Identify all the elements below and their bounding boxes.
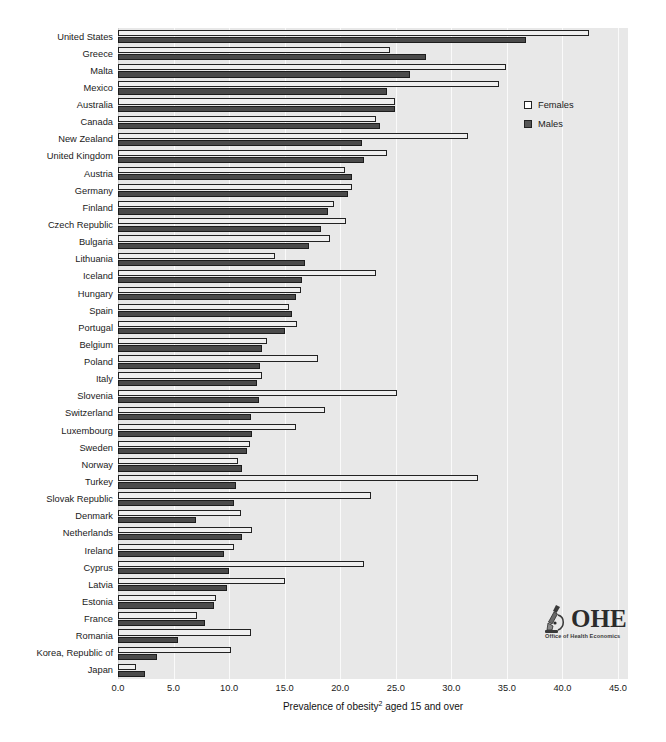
x-axis-tick-15.0: 15.0	[276, 683, 294, 693]
bar-row	[118, 576, 628, 593]
y-axis-label: Norway	[0, 460, 113, 470]
bar-males	[118, 345, 262, 351]
bar-males	[118, 534, 242, 540]
bar-females	[118, 47, 390, 53]
legend-item-male: Males	[524, 119, 634, 129]
bar-females	[118, 338, 267, 344]
bar-females	[118, 527, 252, 533]
bar-males	[118, 277, 302, 283]
y-axis-label: Korea, Republic of	[0, 648, 113, 658]
bar-row	[118, 302, 628, 319]
bar-males	[118, 243, 309, 249]
y-axis-label: New Zealand	[0, 134, 113, 144]
y-axis-label: Canada	[0, 117, 113, 127]
bar-row	[118, 285, 628, 302]
y-axis-label: Lithuania	[0, 254, 113, 264]
y-axis-label: Latvia	[0, 580, 113, 590]
bar-females	[118, 355, 318, 361]
bar-males	[118, 448, 247, 454]
x-axis-tick-25.0: 25.0	[387, 683, 405, 693]
x-axis-title-tail: aged 15 and over	[382, 701, 463, 712]
bar-row	[118, 148, 628, 165]
bar-males	[118, 140, 362, 146]
ohe-logo: OHE Office of Health Economics	[543, 603, 647, 649]
bar-females	[118, 30, 589, 36]
bar-females	[118, 321, 297, 327]
bar-males	[118, 637, 178, 643]
bar-row	[118, 79, 628, 96]
bar-males	[118, 226, 321, 232]
bar-row	[118, 165, 628, 182]
bar-males	[118, 328, 285, 334]
legend-swatch-male-icon	[524, 120, 532, 128]
bar-females	[118, 561, 364, 567]
bar-females	[118, 372, 262, 378]
bar-females	[118, 218, 346, 224]
bar-males	[118, 671, 145, 677]
y-axis-label: Romania	[0, 631, 113, 641]
microscope-icon	[543, 603, 573, 637]
bar-females	[118, 201, 334, 207]
y-axis-label: Spain	[0, 306, 113, 316]
legend-label: Females	[538, 100, 574, 110]
bar-row	[118, 354, 628, 371]
bar-row	[118, 371, 628, 388]
bar-males	[118, 123, 380, 129]
y-axis-label: Japan	[0, 665, 113, 675]
bar-females	[118, 253, 275, 259]
bar-row	[118, 336, 628, 353]
bar-males	[118, 363, 260, 369]
x-axis-title: Prevalence of obesity2 aged 15 and over	[118, 700, 628, 712]
bar-males	[118, 602, 214, 608]
y-axis-label: Greece	[0, 49, 113, 59]
y-axis-label: Australia	[0, 100, 113, 110]
bar-row	[118, 319, 628, 336]
bar-females	[118, 510, 241, 516]
bar-females	[118, 116, 376, 122]
x-axis-tick-40.0: 40.0	[553, 683, 571, 693]
y-axis-label: Estonia	[0, 597, 113, 607]
bar-females	[118, 407, 325, 413]
bar-females	[118, 235, 330, 241]
x-axis-tick-30.0: 30.0	[442, 683, 460, 693]
x-axis-tick-10.0: 10.0	[220, 683, 238, 693]
bar-males	[118, 585, 227, 591]
y-axis-label: Mexico	[0, 83, 113, 93]
bar-row	[118, 62, 628, 79]
bar-females	[118, 98, 395, 104]
y-axis-label: Malta	[0, 66, 113, 76]
x-axis-tick-5.0: 5.0	[167, 683, 180, 693]
legend-swatch-female-icon	[524, 101, 532, 109]
bar-females	[118, 458, 238, 464]
y-axis-label: Slovenia	[0, 391, 113, 401]
bar-males	[118, 380, 257, 386]
bar-males	[118, 191, 348, 197]
y-axis-label: France	[0, 614, 113, 624]
bar-females	[118, 270, 376, 276]
bar-row	[118, 491, 628, 508]
bar-row	[118, 508, 628, 525]
bar-females	[118, 133, 468, 139]
bar-females	[118, 647, 231, 653]
y-axis-label: Netherlands	[0, 528, 113, 538]
bar-females	[118, 81, 499, 87]
y-axis-label: Germany	[0, 186, 113, 196]
legend: FemalesMales	[524, 100, 634, 138]
bar-females	[118, 64, 506, 70]
bar-females	[118, 167, 345, 173]
x-axis-title-base: Prevalence of obesity	[283, 701, 379, 712]
logo-acronym: OHE	[571, 605, 627, 633]
y-axis-label: Italy	[0, 374, 113, 384]
bar-males	[118, 397, 259, 403]
bar-row	[118, 251, 628, 268]
bar-males	[118, 482, 236, 488]
x-axis-tick-0.0: 0.0	[112, 683, 125, 693]
y-axis-label: Cyprus	[0, 563, 113, 573]
y-axis-label: Luxembourg	[0, 426, 113, 436]
legend-label: Males	[538, 119, 563, 129]
bar-females	[118, 150, 387, 156]
bar-row	[118, 45, 628, 62]
y-axis-label: Switzerland	[0, 408, 113, 418]
y-axis-label: Sweden	[0, 443, 113, 453]
bar-females	[118, 629, 251, 635]
